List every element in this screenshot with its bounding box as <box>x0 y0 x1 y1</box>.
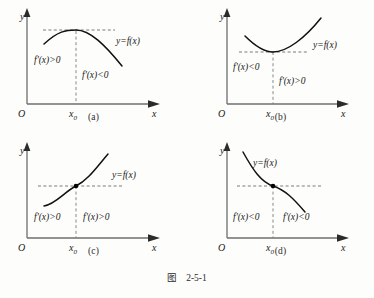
left-derivative-label-c: f'(x)>0 <box>34 212 61 223</box>
left-derivative-label-d: f'(x)<0 <box>233 212 260 223</box>
left-derivative-label-a: f'(x)>0 <box>34 55 61 66</box>
panel-grid: y x O x0 y=f(x) f'(x)>0 f'(x)<0 y <box>0 0 374 268</box>
panel-caption-c: (c) <box>0 246 187 256</box>
y-axis-label-b: y <box>219 11 225 22</box>
curve-label-b: y=f(x) <box>312 40 337 51</box>
figure-caption-word: 图 <box>167 273 177 283</box>
inflection-point-dot-c <box>74 184 79 189</box>
right-derivative-label-d: f'(x)<0 <box>283 212 310 223</box>
figure-caption: 图2-5-1 <box>0 270 374 284</box>
curve-label-c: y=f(x) <box>111 170 136 181</box>
x-axis-arrow-c <box>148 234 160 242</box>
x-axis-arrow-a <box>148 100 160 108</box>
curve-label-d: y=f(x) <box>252 158 277 169</box>
figure-caption-number: 2-5-1 <box>186 273 207 283</box>
x-axis-arrow-b <box>337 100 349 108</box>
x-axis-arrow-d <box>337 234 349 242</box>
left-derivative-label-b: f'(x)<0 <box>233 62 260 73</box>
y-axis-arrow-a <box>24 8 31 17</box>
curve-label-a: y=f(x) <box>115 36 140 47</box>
figure-2-5-1: y x O x0 y=f(x) f'(x)>0 f'(x)<0 y <box>0 0 374 298</box>
panel-caption-d: (d) <box>187 246 374 256</box>
right-derivative-label-a: f'(x)<0 <box>82 70 109 81</box>
panel-caption-b: (b) <box>187 112 374 122</box>
right-derivative-label-c: f'(x)>0 <box>83 212 110 223</box>
y-axis-label-c: y <box>19 145 25 156</box>
panel-caption-a: (a) <box>0 112 187 122</box>
right-derivative-label-b: f'(x)>0 <box>279 76 306 87</box>
y-axis-arrow-c <box>24 142 31 151</box>
curve-b <box>245 18 321 52</box>
y-axis-arrow-b <box>224 8 231 17</box>
inflection-point-dot-d <box>271 184 276 189</box>
y-axis-label-a: y <box>19 11 25 22</box>
y-axis-arrow-d <box>224 142 231 151</box>
y-axis-label-d: y <box>219 145 225 156</box>
